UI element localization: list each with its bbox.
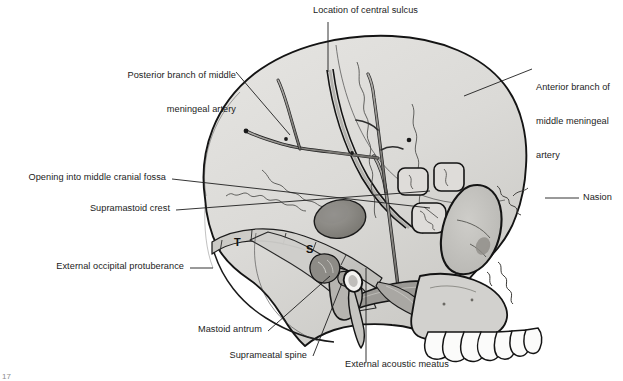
mastoid-antrum [310,254,340,283]
label-mastoid-antrum: Mastoid antrum [100,324,262,335]
label-line: Anterior branch of [536,82,610,93]
anatomical-figure: Location of central sulcus Posterior bra… [0,0,623,381]
label-line: artery [536,150,610,161]
label-suprameatal-spine: Suprameatal spine [130,350,307,361]
label-external-occipital-protuberance: External occipital protuberance [0,261,184,272]
label-external-acoustic-meatus: External acoustic meatus [345,359,449,370]
label-anterior-branch-of-middle-meningeal-artery: Anterior branch of middle meningeal arte… [536,59,610,184]
label-location-of-central-sulcus: Location of central sulcus [313,5,418,16]
label-line: middle meningeal [536,116,610,127]
bone-letter-t: T [234,236,241,248]
label-opening-into-middle-cranial-fossa: Opening into middle cranial fossa [0,172,166,183]
label-posterior-branch-of-middle-meningeal-artery: Posterior branch of middle meningeal art… [0,47,236,138]
upper-teeth [425,328,542,362]
figure-caption-fragment: 17 [2,372,11,381]
label-nasion: Nasion [583,192,612,203]
bone-letter-s: S [306,243,313,255]
label-supramastoid-crest: Supramastoid crest [0,203,170,214]
label-line: meningeal artery [0,104,236,115]
label-line: Posterior branch of middle [0,70,236,81]
